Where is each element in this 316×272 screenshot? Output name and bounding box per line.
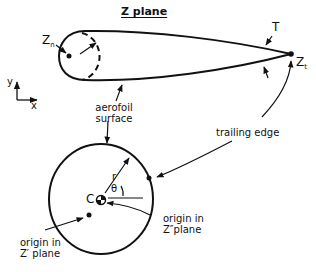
leading-point-label: Zn: [42, 35, 55, 48]
origin-z-double-prime-arrow: [107, 203, 150, 215]
leading-point-z: Z: [42, 33, 50, 47]
trailing-point-z: Z: [296, 55, 304, 69]
origin-z-prime-label: origin in Z′ plane: [20, 237, 61, 259]
trailing-edge-label: trailing edge: [216, 127, 279, 138]
trailing-point-subscript: t: [304, 63, 307, 71]
z-plane-title: Z plane: [121, 6, 167, 17]
origin-z-prime-line2: Z′ plane: [20, 248, 61, 259]
origin-z-prime-dot: [87, 213, 92, 218]
trailing-edge-arrow-to-circle: [157, 141, 232, 177]
origin-z-double-prime-label: origin in Z″plane: [163, 213, 204, 235]
thickness-arrow-top: [266, 36, 272, 45]
origin-z-double-prime-line1: origin in: [163, 213, 204, 224]
angle-arc: [121, 186, 123, 196]
trailing-edge-arrow-to-zt: [262, 61, 291, 117]
trailing-point-dot: [288, 51, 294, 57]
axis-x-label: x: [31, 100, 37, 111]
circle-trailing-edge-dot: [147, 176, 152, 181]
aerofoil-surface-arrow-down: [107, 121, 108, 143]
center-label: C: [86, 194, 94, 205]
aerofoil-surface-label: aerofoil surface: [93, 102, 135, 124]
leading-radius-arrow: [80, 43, 96, 54]
origin-z-double-prime-line2: Z″plane: [163, 224, 204, 235]
radius-label: r: [112, 171, 116, 182]
origin-z-prime-line1: origin in: [20, 237, 61, 248]
trailing-point-label: Zt: [296, 57, 307, 70]
axis-y-label: y: [7, 76, 13, 87]
center-marker: [97, 196, 106, 205]
leading-point-dot: [67, 54, 72, 59]
angle-label: θ: [111, 183, 117, 194]
aerofoil-surface-arrow-up: [116, 85, 122, 101]
origin-z-prime-arrow: [45, 218, 83, 230]
leading-edge-dashed-circle: [82, 33, 100, 80]
aerofoil-surface-line2: surface: [93, 113, 135, 124]
thickness-arrow-bottom: [264, 67, 268, 78]
aerofoil-outline: [59, 31, 291, 80]
leading-point-subscript: n: [50, 41, 54, 49]
aerofoil-surface-line1: aerofoil: [93, 102, 135, 113]
thickness-label: T: [272, 22, 279, 33]
